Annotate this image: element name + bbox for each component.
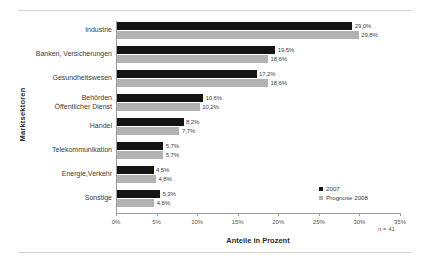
category-label: Industrie (0, 26, 112, 35)
bar-value-label: 4,8% (158, 176, 171, 182)
category-label: Telekommunikation (0, 146, 112, 155)
legend-item-2007: 2007 (319, 184, 368, 193)
x-tick-label: 10% (191, 219, 203, 225)
chart-legend: 2007 Prognose 2008 (319, 184, 368, 202)
bar-value-label: 4,6% (157, 200, 170, 206)
bar-value-label: 10,6% (206, 95, 223, 101)
bottom-divider (18, 252, 412, 253)
legend-swatch-icon (319, 187, 323, 191)
bar-prognose-2008: 29,8% (117, 31, 359, 39)
x-tick-label: 15% (232, 219, 244, 225)
x-tick-label: 5% (152, 219, 161, 225)
top-divider (18, 10, 412, 11)
category-label: Sonstige (0, 194, 112, 203)
bar-value-label: 18,6% (270, 80, 287, 86)
x-tick-mark (197, 213, 198, 216)
category-label-line: Industrie (0, 26, 112, 35)
x-axis-title: Anteile in Prozent (116, 236, 400, 245)
x-tick-mark (400, 213, 401, 216)
bar-prognose-2008: 4,6% (117, 199, 154, 207)
bar-prognose-2008: 7,7% (117, 127, 179, 135)
bar-2007: 4,5% (117, 166, 154, 174)
x-tick-mark (359, 213, 360, 216)
bar-prognose-2008: 5,7% (117, 151, 163, 159)
x-axis-line (116, 213, 400, 214)
category-label: BehördenÖffentlicher Dienst (0, 94, 112, 111)
bar-2007: 19,5% (117, 46, 275, 54)
x-tick-mark (278, 213, 279, 216)
bar-value-label: 7,7% (182, 128, 195, 134)
category-label-line: Handel (0, 122, 112, 131)
category-label-line: Behörden (0, 94, 112, 103)
category-label-line: Telekommunikation (0, 146, 112, 155)
bar-value-label: 5,7% (166, 143, 179, 149)
bar-2007: 8,2% (117, 118, 184, 126)
bar-prognose-2008: 10,2% (117, 103, 200, 111)
bar-2007: 5,7% (117, 142, 163, 150)
legend-item-prognose-2008: Prognose 2008 (319, 193, 368, 202)
category-label-line: Öffentlicher Dienst (0, 103, 112, 112)
category-label: Gesundheitswesen (0, 74, 112, 83)
bar-value-label: 29,0% (355, 23, 372, 29)
bar-value-label: 10,2% (202, 104, 219, 110)
x-tick-mark (319, 213, 320, 216)
x-tick-mark (157, 213, 158, 216)
sample-size-note: n = 41 (378, 226, 395, 232)
bar-value-label: 5,7% (166, 152, 179, 158)
x-tick-label: 30% (353, 219, 365, 225)
bar-prognose-2008: 4,8% (117, 175, 156, 183)
category-label: Energie,Verkehr (0, 170, 112, 179)
x-tick-label: 35% (394, 219, 406, 225)
legend-swatch-icon (319, 196, 323, 200)
x-tick-mark (116, 213, 117, 216)
x-tick-label: 0% (112, 219, 121, 225)
bar-2007: 17,2% (117, 70, 257, 78)
bar-value-label: 19,5% (278, 47, 295, 53)
x-tick-mark (238, 213, 239, 216)
category-label-line: Sonstige (0, 194, 112, 203)
bar-value-label: 17,2% (259, 71, 276, 77)
bar-2007: 29,0% (117, 22, 352, 30)
bar-value-label: 29,8% (361, 32, 378, 38)
category-label-line: Gesundheitswesen (0, 74, 112, 83)
bar-prognose-2008: 18,6% (117, 55, 268, 63)
bar-value-label: 5,3% (163, 191, 176, 197)
category-label: Banken, Versicherungen (0, 50, 112, 59)
legend-label: Prognose 2008 (326, 194, 368, 201)
category-label: Handel (0, 122, 112, 131)
bar-value-label: 4,5% (156, 167, 169, 173)
chart-figure: Marktsektoren Industrie29,0%29,8%Banken,… (0, 0, 428, 259)
bar-2007: 5,3% (117, 190, 160, 198)
category-label-line: Banken, Versicherungen (0, 50, 112, 59)
bar-value-label: 8,2% (186, 119, 199, 125)
x-tick-label: 20% (272, 219, 284, 225)
bar-2007: 10,6% (117, 94, 203, 102)
bar-value-label: 18,6% (270, 56, 287, 62)
legend-label: 2007 (326, 185, 340, 192)
x-tick-label: 25% (313, 219, 325, 225)
bar-prognose-2008: 18,6% (117, 79, 268, 87)
category-label-line: Energie,Verkehr (0, 170, 112, 179)
